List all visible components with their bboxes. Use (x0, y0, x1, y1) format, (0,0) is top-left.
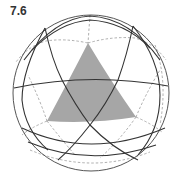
shaded-spherical-triangle (47, 43, 136, 122)
sphere-diagram (0, 0, 180, 174)
